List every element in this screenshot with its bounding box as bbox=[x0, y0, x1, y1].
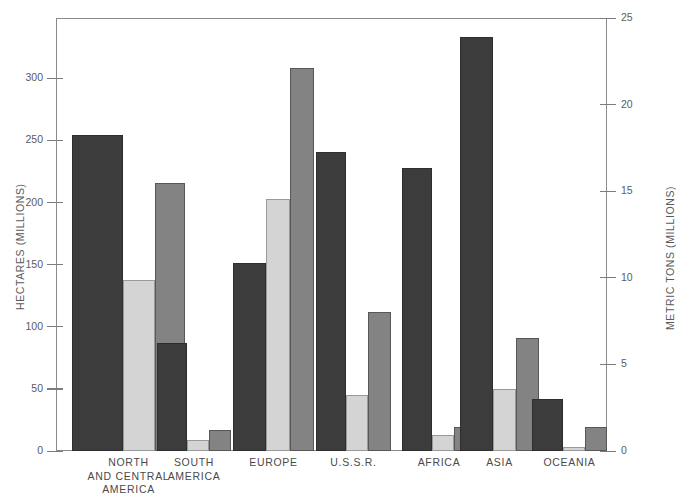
y-axis-left-tick bbox=[47, 326, 63, 327]
y-axis-left-tick bbox=[47, 78, 63, 79]
y-axis-right-tick bbox=[600, 18, 616, 19]
y-axis-right-ticklabel: 10 bbox=[621, 271, 653, 283]
y-axis-left-ticklabel: 200 bbox=[13, 196, 43, 208]
y-axis-left-ticklabel: 0 bbox=[13, 444, 43, 456]
y-axis-left-ticklabel: 150 bbox=[13, 258, 43, 270]
y-axis-left-tick bbox=[47, 451, 63, 452]
y-axis-right-tick bbox=[600, 364, 616, 365]
y-axis-right-tick bbox=[600, 277, 616, 278]
y-axis-left-tick bbox=[47, 140, 63, 141]
plot-area bbox=[56, 18, 607, 451]
y-axis-left-ticklabel: 300 bbox=[13, 71, 43, 83]
y-axis-right-ticklabel: 15 bbox=[621, 184, 653, 196]
y-axis-left-tick bbox=[47, 388, 63, 389]
y-axis-right-ticklabel: 20 bbox=[621, 98, 653, 110]
y-axis-right-tick bbox=[600, 191, 616, 192]
y-axis-right-ticklabel: 5 bbox=[621, 357, 653, 369]
y-axis-right-title: METRIC TONS (MILLIONS) bbox=[664, 186, 676, 330]
y-axis-left-ticklabel: 100 bbox=[13, 320, 43, 332]
y-axis-right-tick bbox=[600, 451, 616, 452]
x-axis-category-label: OCEANIA bbox=[500, 456, 640, 470]
y-axis-left-ticklabel: 50 bbox=[13, 382, 43, 394]
y-axis-right-tick bbox=[600, 104, 616, 105]
y-axis-right-ticklabel: 25 bbox=[621, 11, 653, 23]
y-axis-left-tick bbox=[47, 264, 63, 265]
y-axis-left-tick bbox=[47, 202, 63, 203]
y-axis-right-ticklabel: 0 bbox=[621, 444, 653, 456]
y-axis-left-ticklabel: 250 bbox=[13, 133, 43, 145]
